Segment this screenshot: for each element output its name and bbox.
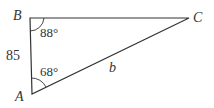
angle-a-arc bbox=[31, 78, 46, 87]
side-ab-label: 85 bbox=[6, 48, 20, 63]
side-ac-label: b bbox=[109, 60, 116, 75]
angle-b-label: 88° bbox=[40, 25, 58, 40]
triangle-diagram: B C A 88° 68° 85 b bbox=[0, 0, 214, 108]
angle-a-label: 68° bbox=[40, 64, 58, 79]
vertex-b-label: B bbox=[13, 8, 22, 23]
vertex-a-label: A bbox=[14, 89, 24, 104]
vertex-c-label: C bbox=[193, 10, 203, 25]
